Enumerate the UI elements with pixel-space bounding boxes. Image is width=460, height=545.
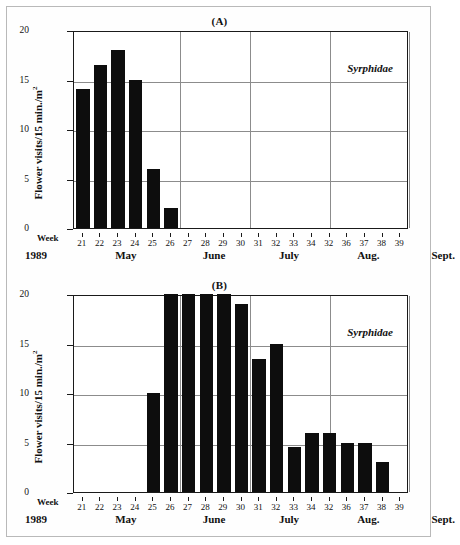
chart-panel-b: (B) Flower visits/15 min./m2 Syrphidae 0… — [7, 275, 432, 537]
x-tick-mark — [399, 233, 400, 237]
y-tick-label: 15 — [0, 75, 29, 85]
taxon-label-a: Syrphidae — [347, 62, 393, 74]
x-tick-mark — [117, 233, 118, 237]
x-tick-mark — [293, 233, 294, 237]
bar — [252, 359, 265, 492]
gridline-vertical — [180, 296, 181, 492]
x-tick-mark — [241, 497, 242, 501]
month-axis-b: 1989 MayJuneJulyAug.Sept. — [7, 513, 432, 529]
y-tick-label: 5 — [0, 438, 29, 448]
panel-a-label: (A) — [7, 15, 432, 27]
x-tick-label: 39 — [388, 238, 410, 248]
month-axis-a: 1989 MayJuneJulyAug.Sept. — [7, 249, 432, 265]
y-tick-mark — [67, 31, 73, 32]
month-label: May — [96, 249, 156, 261]
month-label: July — [259, 249, 319, 261]
x-tick-mark — [170, 497, 171, 501]
y-tick-mark — [67, 493, 73, 494]
y-axis-title-b: Flower visits/15 min./m2 — [31, 319, 45, 495]
year-label-b: 1989 — [25, 513, 47, 525]
x-tick-mark — [152, 233, 153, 237]
y-tick-mark — [67, 295, 73, 296]
y-tick-label: 5 — [0, 174, 29, 184]
x-tick-mark — [276, 497, 277, 501]
bar — [358, 443, 371, 493]
month-label: June — [184, 249, 244, 261]
bar — [76, 89, 89, 228]
gridline-vertical — [409, 296, 410, 492]
y-tick-mark — [67, 444, 73, 445]
y-tick-mark — [67, 229, 73, 230]
taxon-label-b: Syrphidae — [347, 326, 393, 338]
year-label-a: 1989 — [25, 249, 47, 261]
x-tick-mark — [382, 497, 383, 501]
panel-b-label: (B) — [7, 279, 432, 291]
week-axis-caption-b: Week — [37, 497, 59, 507]
x-axis-ticks-b: 21222324252627282930313233343236373839 — [73, 497, 408, 511]
chart-panel-a: (A) Flower visits/15 min./m2 Syrphidae 0… — [7, 11, 432, 273]
x-tick-mark — [329, 233, 330, 237]
bar — [288, 447, 301, 492]
x-tick-mark — [135, 233, 136, 237]
x-tick-mark — [258, 497, 259, 501]
x-tick-mark — [223, 233, 224, 237]
x-tick-mark — [364, 497, 365, 501]
bar — [147, 169, 160, 228]
x-axis-ticks-a: 21222324252627282930313233343236373839 — [73, 233, 408, 247]
x-tick-mark — [311, 233, 312, 237]
y-tick-label: 0 — [0, 487, 29, 497]
x-tick-mark — [311, 497, 312, 501]
x-tick-mark — [205, 233, 206, 237]
x-tick-mark — [241, 233, 242, 237]
x-tick-mark — [364, 233, 365, 237]
y-tick-label: 20 — [0, 25, 29, 35]
x-tick-mark — [188, 497, 189, 501]
y-tick-mark — [67, 394, 73, 395]
bar — [270, 344, 283, 493]
x-tick-mark — [135, 497, 136, 501]
y-tick-label: 15 — [0, 339, 29, 349]
x-tick-mark — [82, 233, 83, 237]
y-tick-mark — [67, 81, 73, 82]
x-tick-mark — [152, 497, 153, 501]
month-label: Sept. — [413, 513, 460, 525]
y-tick-mark — [67, 345, 73, 346]
x-tick-mark — [223, 497, 224, 501]
x-tick-mark — [82, 497, 83, 501]
bar — [323, 433, 336, 492]
bar — [341, 443, 354, 493]
x-tick-label: 39 — [388, 502, 410, 512]
month-label: June — [184, 513, 244, 525]
gridline-vertical — [330, 32, 331, 228]
bar — [164, 208, 177, 228]
x-tick-mark — [188, 233, 189, 237]
y-axis-title-a: Flower visits/15 min./m2 — [31, 55, 45, 231]
x-tick-mark — [399, 497, 400, 501]
month-label: May — [96, 513, 156, 525]
month-label: Aug. — [338, 249, 398, 261]
plot-area-a: Syrphidae — [73, 31, 408, 229]
x-tick-mark — [276, 233, 277, 237]
x-tick-mark — [293, 497, 294, 501]
x-tick-mark — [170, 233, 171, 237]
bar — [164, 294, 177, 492]
y-tick-label: 10 — [0, 124, 29, 134]
y-tick-label: 0 — [0, 223, 29, 233]
bar — [147, 393, 160, 492]
x-tick-mark — [346, 497, 347, 501]
bar — [111, 50, 124, 228]
month-label: Aug. — [338, 513, 398, 525]
x-tick-mark — [117, 497, 118, 501]
bar — [94, 65, 107, 228]
y-tick-label: 10 — [0, 388, 29, 398]
plot-area-b: Syrphidae — [73, 295, 408, 493]
bar — [200, 294, 213, 492]
bar — [305, 433, 318, 492]
bar — [217, 294, 230, 492]
gridline-vertical — [180, 32, 181, 228]
gridline-vertical — [250, 296, 251, 492]
week-axis-caption-a: Week — [37, 233, 59, 243]
x-tick-mark — [99, 233, 100, 237]
gridline-vertical — [250, 32, 251, 228]
month-label: July — [259, 513, 319, 525]
